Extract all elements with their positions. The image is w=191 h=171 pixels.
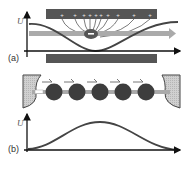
panel-b-label: (b)	[8, 144, 19, 154]
svg-text:+: +	[106, 12, 110, 18]
particle-chain	[46, 84, 155, 101]
svg-text:+: +	[94, 12, 98, 18]
particle-1	[46, 84, 63, 101]
svg-text:+: +	[132, 12, 136, 18]
diagram-canvas: + + + + + + + + + +	[0, 0, 191, 171]
svg-text:+: +	[99, 12, 103, 18]
potential-barrier-curve	[28, 122, 178, 150]
hop-arrows	[42, 79, 143, 82]
panel-b-y-label: U	[17, 118, 24, 128]
svg-text:+: +	[116, 12, 120, 18]
channel-flow-arrow	[29, 31, 169, 36]
svg-text:+: +	[88, 12, 92, 18]
svg-text:+: +	[82, 12, 86, 18]
particle-2	[69, 84, 86, 101]
panel-b	[23, 75, 180, 152]
svg-text:+: +	[73, 12, 77, 18]
panel-a: + + + + + + + + + +	[24, 9, 180, 63]
particle-4	[115, 84, 132, 101]
panel-a-label: (a)	[8, 53, 19, 63]
particle-5	[138, 84, 155, 101]
bottom-electrode	[46, 54, 157, 63]
particle-3	[92, 84, 109, 101]
svg-text:+: +	[148, 12, 152, 18]
svg-text:+: +	[60, 12, 64, 18]
panel-a-y-label: U	[17, 16, 24, 26]
